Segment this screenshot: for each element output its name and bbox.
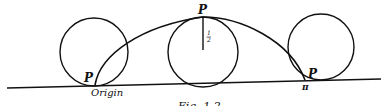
label-origin: Origin xyxy=(91,87,123,98)
figure-caption: Fig. 1.2 xyxy=(177,100,221,106)
label-point-end: P xyxy=(307,67,318,81)
cycloid-curve xyxy=(95,17,305,85)
circle-end xyxy=(288,14,354,80)
label-radius-num: 1 xyxy=(207,29,211,36)
circle-start xyxy=(60,18,128,86)
cycloid-figure: P Origin P 1 2 P π Fig. 1.2 xyxy=(0,0,384,106)
label-radius-den: 2 xyxy=(206,36,211,43)
label-point-top: P xyxy=(197,3,208,17)
label-point-start: P xyxy=(83,71,94,85)
label-pi: π xyxy=(301,82,309,92)
